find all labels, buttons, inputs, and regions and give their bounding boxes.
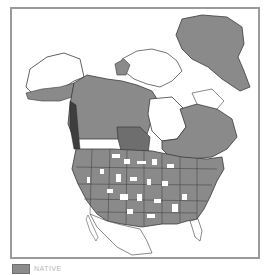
florida — [190, 219, 202, 241]
legend: NATIVE — [12, 264, 62, 273]
canada-west-region — [68, 75, 157, 139]
legend-swatch-native — [12, 264, 30, 274]
map-frame — [10, 7, 260, 259]
greenland-region — [176, 15, 250, 91]
range-map — [12, 9, 258, 257]
arctic-islands — [122, 49, 182, 87]
legend-label-native: NATIVE — [34, 265, 62, 273]
